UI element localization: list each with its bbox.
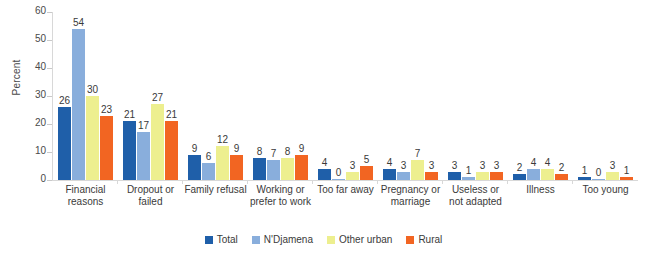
- y-tick-label: 10: [22, 145, 46, 156]
- bar[interactable]: [411, 160, 424, 180]
- bar[interactable]: [281, 158, 294, 180]
- legend-label: Rural: [418, 234, 442, 245]
- legend-item[interactable]: Total: [205, 234, 238, 245]
- bar-item[interactable]: 7: [411, 12, 424, 180]
- bar-item[interactable]: 3: [346, 12, 359, 180]
- bar-item[interactable]: 0: [592, 12, 605, 180]
- bar-value-label: 1: [466, 165, 472, 176]
- bar[interactable]: [100, 116, 113, 180]
- bar[interactable]: [165, 121, 178, 180]
- bar-value-label: 30: [87, 84, 98, 95]
- bar-item[interactable]: 7: [267, 12, 280, 180]
- bar-item[interactable]: 3: [425, 12, 438, 180]
- bar[interactable]: [490, 172, 503, 180]
- bar-item[interactable]: 1: [462, 12, 475, 180]
- x-axis-category-label: Too young: [573, 184, 638, 207]
- bar[interactable]: [620, 177, 633, 180]
- bar[interactable]: [72, 29, 85, 180]
- bar-group-bars: 2442: [508, 12, 573, 180]
- legend-label: Total: [217, 234, 238, 245]
- bar[interactable]: [332, 179, 345, 181]
- bar-item[interactable]: 3: [448, 12, 461, 180]
- legend-item[interactable]: Other urban: [327, 234, 392, 245]
- bar-item[interactable]: 1: [578, 12, 591, 180]
- bar-item[interactable]: 26: [58, 12, 71, 180]
- bar[interactable]: [360, 166, 373, 180]
- bar-item[interactable]: 3: [476, 12, 489, 180]
- bar[interactable]: [318, 169, 331, 180]
- bar-item[interactable]: 4: [541, 12, 554, 180]
- bar[interactable]: [462, 177, 475, 180]
- bar-item[interactable]: 9: [188, 12, 201, 180]
- bar-value-label: 7: [271, 148, 277, 159]
- legend-item[interactable]: Rural: [406, 234, 442, 245]
- bar-item[interactable]: 21: [123, 12, 136, 180]
- bar-value-label: 5: [364, 154, 370, 165]
- bar-item[interactable]: 3: [606, 12, 619, 180]
- legend-label: Other urban: [339, 234, 392, 245]
- bar-item[interactable]: 6: [202, 12, 215, 180]
- bar-item[interactable]: 8: [253, 12, 266, 180]
- bar[interactable]: [123, 121, 136, 180]
- x-axis-category-label: Useless or not adapted: [443, 184, 508, 207]
- bar-item[interactable]: 21: [165, 12, 178, 180]
- bar-value-label: 2: [517, 162, 523, 173]
- bar-value-label: 9: [192, 143, 198, 154]
- bar-item[interactable]: 3: [397, 12, 410, 180]
- bar-item[interactable]: 2: [555, 12, 568, 180]
- bar[interactable]: [578, 177, 591, 180]
- bar-item[interactable]: 1: [620, 12, 633, 180]
- y-tick-label: 50: [22, 33, 46, 44]
- bar-item[interactable]: 3: [490, 12, 503, 180]
- bar[interactable]: [397, 172, 410, 180]
- bar-item[interactable]: 4: [527, 12, 540, 180]
- bar-value-label: 0: [336, 167, 342, 178]
- bar[interactable]: [541, 169, 554, 180]
- x-axis-category-labels: Financial reasonsDropout or failedFamily…: [53, 184, 638, 207]
- bar[interactable]: [448, 172, 461, 180]
- bar-group: 4373: [378, 12, 443, 180]
- bar[interactable]: [137, 132, 150, 180]
- bar[interactable]: [253, 158, 266, 180]
- bar[interactable]: [425, 172, 438, 180]
- bar[interactable]: [202, 163, 215, 180]
- bar-item[interactable]: 8: [281, 12, 294, 180]
- bar-item[interactable]: 17: [137, 12, 150, 180]
- bar[interactable]: [606, 172, 619, 180]
- bar-item[interactable]: 0: [332, 12, 345, 180]
- bar-item[interactable]: 27: [151, 12, 164, 180]
- bar[interactable]: [267, 160, 280, 180]
- bar-value-label: 17: [138, 120, 149, 131]
- legend-item[interactable]: N'Djamena: [252, 234, 313, 245]
- bar-item[interactable]: 30: [86, 12, 99, 180]
- bar-value-label: 26: [59, 95, 70, 106]
- bar-item[interactable]: 9: [295, 12, 308, 180]
- bar[interactable]: [555, 174, 568, 180]
- bar[interactable]: [86, 96, 99, 180]
- bar[interactable]: [58, 107, 71, 180]
- bar[interactable]: [592, 179, 605, 181]
- bar[interactable]: [346, 172, 359, 180]
- bar-item[interactable]: 12: [216, 12, 229, 180]
- bar-item[interactable]: 4: [318, 12, 331, 180]
- bar-item[interactable]: 23: [100, 12, 113, 180]
- y-tick-mark: [47, 12, 52, 13]
- bar[interactable]: [295, 155, 308, 180]
- bar-item[interactable]: 9: [230, 12, 243, 180]
- y-axis-title: Percent: [11, 38, 22, 118]
- bar-value-label: 0: [596, 167, 602, 178]
- bar[interactable]: [188, 155, 201, 180]
- chart-legend: TotalN'DjamenaOther urbanRural: [0, 234, 647, 245]
- bar-item[interactable]: 2: [513, 12, 526, 180]
- bar-item[interactable]: 5: [360, 12, 373, 180]
- bar[interactable]: [151, 104, 164, 180]
- bar[interactable]: [230, 155, 243, 180]
- bar-item[interactable]: 4: [383, 12, 396, 180]
- bar[interactable]: [527, 169, 540, 180]
- bar[interactable]: [476, 172, 489, 180]
- bar[interactable]: [383, 169, 396, 180]
- bar[interactable]: [216, 146, 229, 180]
- bar[interactable]: [513, 174, 526, 180]
- bar-value-label: 3: [610, 160, 616, 171]
- bar-item[interactable]: 54: [72, 12, 85, 180]
